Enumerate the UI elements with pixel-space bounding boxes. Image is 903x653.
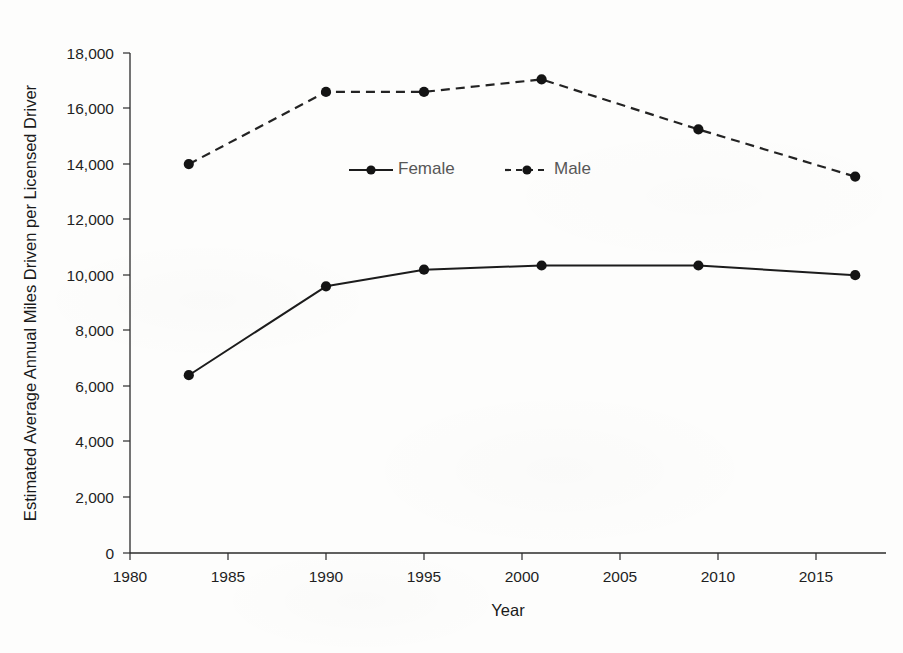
data-point (537, 260, 547, 270)
legend-marker-male (522, 165, 531, 174)
x-axis-title: Year (491, 601, 525, 619)
data-point (850, 172, 860, 182)
y-tick-label: 12,000 (67, 211, 115, 228)
chart-figure: Estimated Average Annual Miles Driven pe… (0, 0, 903, 653)
series-male (184, 74, 861, 181)
y-tick-marks (123, 53, 130, 553)
legend-label-female: Female (398, 159, 455, 178)
y-tick-label: 6,000 (75, 378, 114, 395)
data-point (850, 270, 860, 280)
x-tick-label: 2010 (701, 568, 736, 585)
data-point (321, 281, 331, 291)
series-layer (184, 74, 861, 380)
legend-item-female: Female (349, 159, 455, 178)
y-tick-label: 14,000 (67, 156, 115, 173)
legend-label-male: Male (554, 159, 591, 178)
data-point (419, 87, 429, 97)
x-tick-marks (130, 553, 816, 560)
line-chart: Estimated Average Annual Miles Driven pe… (0, 0, 903, 653)
y-tick-labels: 18,000 16,000 14,000 12,000 10,000 8,000… (67, 45, 115, 562)
y-axis-title: Estimated Average Annual Miles Driven pe… (21, 84, 39, 521)
y-tick-label: 18,000 (67, 45, 115, 62)
legend-item-male: Male (505, 159, 591, 178)
data-point (184, 370, 194, 380)
x-tick-labels: 1980 1985 1990 1995 2000 2005 2010 2015 (113, 568, 833, 585)
series-line-female (189, 266, 855, 376)
chart-legend: Female Male (349, 159, 591, 178)
series-female (184, 260, 861, 380)
x-tick-label: 1980 (113, 568, 148, 585)
y-tick-label: 10,000 (67, 267, 115, 284)
data-point (184, 159, 194, 169)
x-tick-label: 2000 (505, 568, 540, 585)
y-tick-label: 2,000 (75, 489, 114, 506)
data-point (321, 87, 331, 97)
y-tick-label: 0 (105, 545, 114, 562)
x-tick-label: 1990 (309, 568, 344, 585)
data-point (693, 124, 703, 134)
data-point (693, 260, 703, 270)
y-tick-label: 8,000 (75, 322, 114, 339)
x-tick-label: 1995 (407, 568, 441, 585)
x-tick-label: 2005 (603, 568, 637, 585)
x-tick-label: 2015 (799, 568, 833, 585)
data-point (419, 265, 429, 275)
data-point (537, 74, 547, 84)
x-tick-label: 1985 (211, 568, 245, 585)
series-line-male (189, 79, 855, 176)
y-tick-label: 16,000 (67, 100, 115, 117)
y-tick-label: 4,000 (75, 433, 114, 450)
legend-marker-female (366, 165, 375, 174)
